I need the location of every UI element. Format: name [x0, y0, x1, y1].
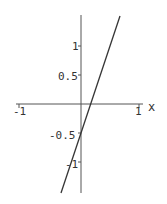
y-tick-label-1: 1 — [72, 40, 79, 53]
x-tick-label-pos1: 1 — [135, 105, 142, 118]
plot-area: -1 1 x 1 0.5 -0.5 -1 — [0, 0, 167, 204]
x-tick-label-neg1: -1 — [13, 105, 26, 118]
y-tick-label-neg1: -1 — [65, 158, 78, 171]
y-tick-label-05: 0.5 — [58, 70, 78, 83]
y-tick-label-neg05: -0.5 — [49, 129, 76, 142]
x-axis-label: x — [148, 100, 155, 114]
